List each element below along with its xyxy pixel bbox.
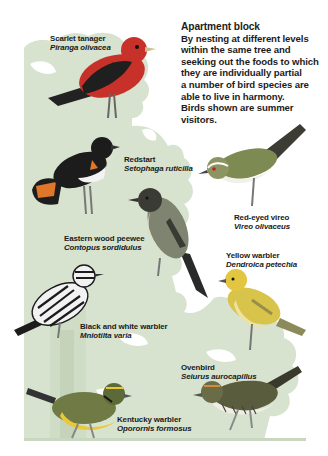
common-name: Ovenbird (181, 363, 257, 372)
common-name: Red-eyed vireo (234, 213, 290, 222)
bird-red-eyed-vireo (198, 124, 306, 206)
latin-name: Piranga olivacea (50, 43, 111, 52)
common-name: Yellow warbler (226, 251, 297, 260)
intro-line: within the same tree and (181, 44, 328, 56)
intro-line: able to live in harmony. (181, 91, 328, 103)
intro-line: seeking out the foods to which (181, 56, 328, 68)
label-redstart: Redstart Setophaga ruticilla (124, 155, 193, 173)
common-name: Scarlet tanager (50, 34, 111, 43)
intro-line: By nesting at different levels (181, 33, 328, 45)
common-name: Black and white warbler (80, 322, 168, 331)
latin-name: Dendroica petechia (226, 260, 297, 269)
latin-name: Setophaga ruticilla (124, 164, 193, 173)
intro-line: they are individually partial (181, 67, 328, 79)
label-red-eyed-vireo: Red-eyed vireo Vireo olivaceus (234, 213, 290, 231)
label-ovenbird: Ovenbird Seiurus aurocapillus (181, 363, 257, 381)
intro-title: Apartment block (181, 21, 328, 33)
label-kentucky-warbler: Kentucky warbler Oporornis formosus (117, 415, 191, 433)
illustration-page: Apartment block By nesting at different … (0, 0, 328, 456)
intro-text: Apartment block By nesting at different … (181, 21, 328, 125)
label-scarlet-tanager: Scarlet tanager Piranga olivacea (50, 34, 111, 52)
ground-line (24, 438, 306, 441)
common-name: Kentucky warbler (117, 415, 191, 424)
latin-name: Mniotilta varia (80, 331, 168, 340)
latin-name: Oporornis formosus (117, 424, 191, 433)
label-black-and-white-warbler: Black and white warbler Mniotilta varia (80, 322, 168, 340)
intro-line: Birds shown are summer visitors. (181, 102, 328, 125)
latin-name: Seiurus aurocapillus (181, 372, 257, 381)
latin-name: Vireo olivaceus (234, 222, 290, 231)
label-eastern-wood-peewee: Eastern wood peewee Contopus sordidulus (64, 234, 145, 252)
common-name: Eastern wood peewee (64, 234, 145, 243)
intro-line: a number of bird species are (181, 79, 328, 91)
label-yellow-warbler: Yellow warbler Dendroica petechia (226, 251, 297, 269)
common-name: Redstart (124, 155, 193, 164)
latin-name: Contopus sordidulus (64, 243, 145, 252)
